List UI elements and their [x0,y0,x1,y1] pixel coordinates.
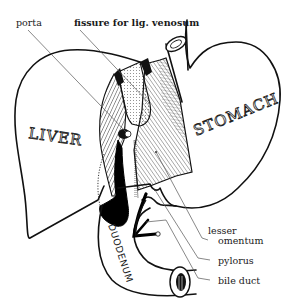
liver-label: LIVER [27,124,83,149]
label-fissure: fissure for lig. venosum [74,17,199,28]
stomach-label: STOMACH [191,89,281,140]
duodenum-label: DUODENUM [106,222,135,284]
label-bile-duct: bile duct [218,275,260,286]
label-omentum: omentum [218,235,263,246]
esophagus-opening [163,33,188,54]
anatomy-diagram: LIVER STOMACH DUODENUM porta fissure for… [0,0,290,304]
bile-duct-tube [134,194,156,236]
label-porta: porta [16,17,42,28]
label-pylorus: pylorus [218,255,254,266]
